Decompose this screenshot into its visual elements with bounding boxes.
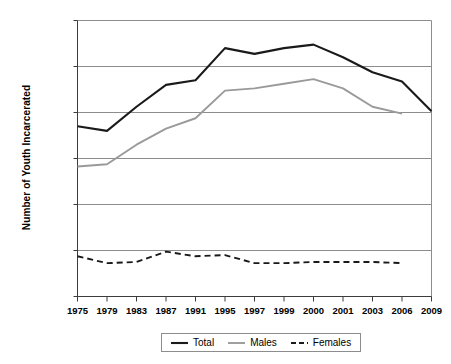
x-axis-tick-label: 1999: [268, 306, 300, 316]
legend-item-males: Males: [228, 338, 277, 348]
legend-swatch-total: [171, 338, 188, 348]
legend-label: Females: [313, 338, 351, 348]
legend-label: Males: [250, 338, 277, 348]
legend-swatch-females: [291, 338, 308, 348]
x-axis-tick-label: 1979: [91, 306, 123, 316]
legend-swatch-males: [228, 338, 245, 348]
x-axis-tick-label: 2001: [327, 306, 359, 316]
legend-item-females: Females: [291, 338, 351, 348]
x-axis-tick-label: 2003: [357, 306, 389, 316]
x-axis-tick-label: 1987: [150, 306, 182, 316]
x-axis-tick-labels: 1975197919831987199119951997199920002001…: [0, 0, 451, 364]
x-axis-tick-label: 1995: [209, 306, 241, 316]
x-axis-tick-label: 1975: [62, 306, 94, 316]
x-axis-tick-label: 1991: [180, 306, 212, 316]
x-axis-tick-label: 1997: [239, 306, 271, 316]
legend-label: Total: [193, 338, 214, 348]
legend-item-total: Total: [171, 338, 214, 348]
x-axis-tick-label: 2000: [298, 306, 330, 316]
chart-figure: Number of Youth Incarcerated 120,000100,…: [0, 0, 451, 364]
x-axis-tick-label: 2009: [416, 306, 448, 316]
x-axis-tick-label: 1983: [121, 306, 153, 316]
x-axis-tick-label: 2006: [386, 306, 418, 316]
chart-legend: TotalMalesFemales: [161, 333, 361, 352]
